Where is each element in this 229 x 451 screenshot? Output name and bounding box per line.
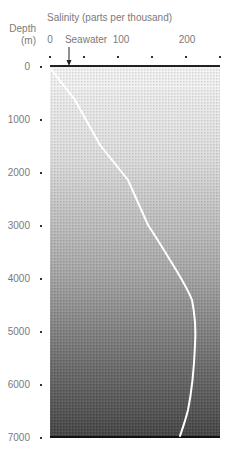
x-tick-dots	[49, 56, 221, 58]
salinity-depth-plot	[0, 0, 229, 451]
seawater-arrow-icon	[67, 47, 72, 66]
y-tick-dots	[40, 66, 42, 439]
